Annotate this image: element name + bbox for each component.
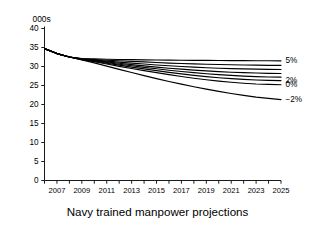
y-tick-label: 30 — [29, 62, 39, 71]
series-label-5pct: 5% — [286, 56, 298, 65]
y-axis-unit-label: 000s — [33, 14, 51, 24]
x-tick-label: 2019 — [198, 186, 215, 195]
x-tick-label: 2007 — [48, 186, 65, 195]
y-tick-label: 35 — [29, 43, 39, 52]
series-line-4pct — [45, 49, 282, 66]
y-tick-label: 15 — [29, 119, 39, 128]
x-tick-label: 2017 — [173, 186, 190, 195]
y-tick-label: 40 — [29, 24, 39, 33]
x-tick-label: 2011 — [99, 186, 115, 195]
x-tick-label: 2025 — [273, 186, 290, 195]
x-tick-label: 2021 — [223, 186, 240, 195]
chart-container: 0510152025303540200720092011201320152017… — [0, 0, 315, 236]
chart-title: Navy trained manpower projections — [0, 205, 315, 218]
series-label-0pct: 0% — [286, 80, 298, 89]
x-tick-label: 2015 — [148, 186, 165, 195]
series-label-neg2pct: −2% — [286, 95, 303, 104]
x-tick-label: 2009 — [73, 186, 90, 195]
y-tick-label: 10 — [29, 138, 39, 147]
y-tick-label: 25 — [29, 81, 39, 90]
x-tick-label: 2023 — [248, 186, 265, 195]
y-tick-label: 5 — [34, 157, 39, 166]
y-tick-label: 0 — [34, 176, 39, 185]
line-chart-svg: 0510152025303540200720092011201320152017… — [0, 0, 315, 236]
x-tick-label: 2013 — [123, 186, 140, 195]
y-tick-label: 20 — [29, 100, 39, 109]
